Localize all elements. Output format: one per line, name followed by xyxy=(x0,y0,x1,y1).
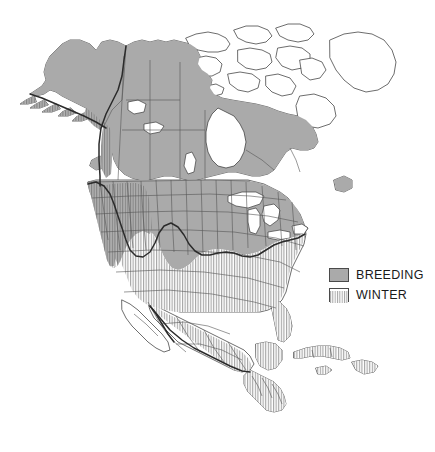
legend-item-breeding: BREEDING xyxy=(329,265,433,285)
legend-label-breeding: BREEDING xyxy=(356,268,424,282)
winter-swatch-icon xyxy=(329,288,349,302)
breeding-swatch-icon xyxy=(329,268,349,282)
winter-area-bc-coast-overlap xyxy=(101,122,112,178)
legend-label-winter: WINTER xyxy=(356,288,407,302)
lake-michigan-water xyxy=(248,208,260,234)
range-map-figure xyxy=(0,0,435,452)
range-map-svg xyxy=(0,0,435,452)
map-legend: BREEDING WINTER xyxy=(329,265,433,305)
legend-item-winter: WINTER xyxy=(329,285,433,305)
winter-hatch-icon xyxy=(330,291,348,303)
lake-erie-water xyxy=(268,230,290,240)
